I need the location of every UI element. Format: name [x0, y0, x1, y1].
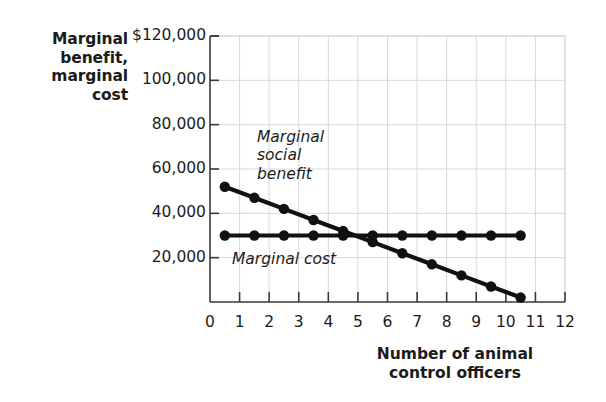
mc-point: [338, 230, 348, 240]
plot-area: [0, 0, 606, 402]
msb-point: [515, 292, 525, 302]
x-tick-label: 5: [345, 315, 371, 331]
msb-point: [308, 215, 318, 225]
msb-point: [486, 281, 496, 291]
annotation-msb-line-3: benefit: [257, 165, 324, 183]
annotation-msb-line-2: social: [257, 146, 324, 164]
annotation-marginal-cost: Marginal cost: [232, 250, 336, 268]
msb-point: [456, 270, 466, 280]
x-axis-title-line-1: Number of animal: [330, 345, 580, 364]
x-tick-label: 3: [286, 315, 312, 331]
msb-point: [279, 204, 289, 214]
msb-point: [220, 182, 230, 192]
series-marginal-cost: [220, 230, 526, 240]
mc-point: [456, 230, 466, 240]
x-tick-label: 0: [197, 315, 223, 331]
mc-point: [515, 230, 525, 240]
series-marginal-social-benefit: [220, 182, 526, 303]
msb-point: [397, 248, 407, 258]
x-tick-label: 11: [522, 315, 548, 331]
x-axis-title: Number of animal control officers: [330, 345, 580, 382]
mc-point: [486, 230, 496, 240]
mc-point: [308, 230, 318, 240]
x-tick-label: 1: [227, 315, 253, 331]
x-tick-label: 9: [463, 315, 489, 331]
annotation-mc-line-1: Marginal cost: [232, 250, 336, 268]
x-tick-label: 4: [315, 315, 341, 331]
mc-point: [368, 230, 378, 240]
mc-point: [249, 230, 259, 240]
msb-point: [427, 259, 437, 269]
chart-figure: Marginal benefit, marginal cost $120,000…: [0, 0, 606, 402]
annotation-marginal-social-benefit: Marginal social benefit: [257, 128, 324, 183]
x-tick-label: 2: [256, 315, 282, 331]
x-tick-label: 6: [375, 315, 401, 331]
x-tick-label: 8: [434, 315, 460, 331]
x-tick-label: 12: [552, 315, 578, 331]
mc-point: [427, 230, 437, 240]
x-tick-label: 7: [404, 315, 430, 331]
mc-point: [279, 230, 289, 240]
annotation-msb-line-1: Marginal: [257, 128, 324, 146]
x-axis-title-line-2: control officers: [330, 364, 580, 383]
x-tick-label: 10: [493, 315, 519, 331]
msb-point: [249, 193, 259, 203]
mc-point: [220, 230, 230, 240]
mc-point: [397, 230, 407, 240]
